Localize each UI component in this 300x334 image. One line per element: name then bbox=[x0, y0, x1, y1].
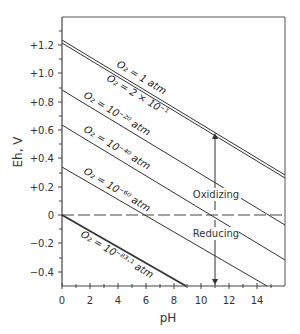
y-tick-label: −0.2 bbox=[30, 238, 54, 249]
y-tick-label: +0.2 bbox=[30, 182, 54, 193]
oxidizing-label: Oxidizing bbox=[193, 189, 239, 200]
x-tick-label: 4 bbox=[115, 295, 121, 306]
label-o2-1e-60: O₂ = 10⁻⁶⁰ atm bbox=[82, 165, 153, 214]
line-o2-1e-83 bbox=[62, 215, 186, 286]
y-tick-label: 0 bbox=[48, 210, 54, 221]
reducing-label: Reducing bbox=[193, 228, 239, 239]
line-o2-1-atm bbox=[62, 40, 285, 175]
x-tick-label: 12 bbox=[223, 295, 236, 306]
y-tick-label: +0.8 bbox=[30, 97, 54, 108]
x-axis-title: pH bbox=[160, 311, 177, 325]
y-tick-label: +0.4 bbox=[30, 153, 54, 164]
y-tick-label: +1.2 bbox=[30, 40, 54, 51]
y-tick-labels: +1.2 +1.0 +0.8 +0.6 +0.4 +0.2 0 −0.2 −0.… bbox=[30, 40, 54, 278]
x-tick-label: 10 bbox=[195, 295, 208, 306]
x-tick-label: 6 bbox=[143, 295, 149, 306]
x-tick-label: 8 bbox=[171, 295, 177, 306]
y-tick-label: +0.6 bbox=[30, 125, 54, 136]
y-tick-label: +1.0 bbox=[30, 68, 54, 79]
y-tick-label: −0.4 bbox=[30, 267, 54, 278]
line-labels: O₂ = 1 atm O₂ = 2 × 10⁻¹ O₂ = 10⁻²⁰ atm … bbox=[79, 58, 170, 280]
x-tick-label: 2 bbox=[87, 295, 93, 306]
x-tick-label: 14 bbox=[251, 295, 264, 306]
line-o2-1e-60 bbox=[62, 167, 267, 286]
eh-ph-chart: +1.2 +1.0 +0.8 +0.6 +0.4 +0.2 0 −0.2 −0.… bbox=[0, 0, 300, 334]
x-tick-labels: 0 2 4 6 8 10 12 14 bbox=[59, 295, 264, 306]
oxygen-lines bbox=[62, 40, 285, 286]
label-o2-1e-83: O₂ = 10⁻⁸³·¹ atm bbox=[79, 228, 156, 280]
x-tick-label: 0 bbox=[59, 295, 65, 306]
y-axis-title: Eh, V bbox=[11, 136, 25, 168]
